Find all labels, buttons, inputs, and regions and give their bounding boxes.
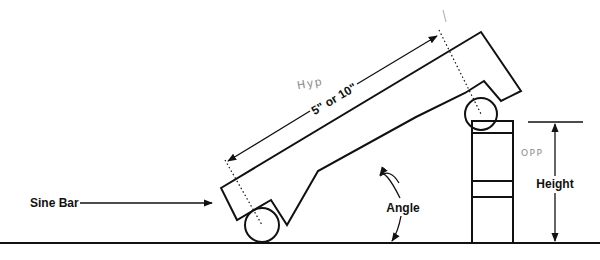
upper-tick-mark (443, 10, 446, 22)
upper-roller (465, 98, 497, 130)
angle-arc (380, 174, 400, 198)
lower-roller (245, 208, 279, 242)
upper-center-line (439, 30, 481, 114)
angle-arc-upper (380, 173, 399, 183)
angle-label: Angle (386, 201, 420, 215)
sine-bar-label: Sine Bar (30, 196, 79, 210)
opp-annotation: OPP (521, 148, 543, 158)
height-label: Height (536, 177, 573, 191)
hyp-annotation: Hyp (296, 75, 324, 92)
sine-bar-diagram: 5" or 10" Hyp Sine Bar OPP Height Angle (0, 0, 600, 260)
length-arrow-upper (357, 36, 437, 84)
angle-arc-lower (392, 216, 401, 241)
length-arrow-lower (228, 111, 310, 161)
